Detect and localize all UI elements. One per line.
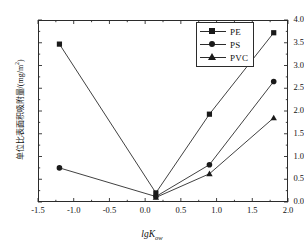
data-point-ps — [57, 165, 63, 171]
y-axis-title-tail: ) — [16, 59, 25, 62]
y-tick-label: 2.5 — [272, 83, 304, 92]
y-axis-title-main: 单位比表面积吸附量/(mg/m — [16, 65, 25, 161]
x-tick-label: -0.5 — [89, 206, 129, 215]
x-tick-label: 1.0 — [197, 206, 237, 215]
x-axis-title: lgKow — [0, 229, 304, 241]
y-tick-label: 4.0 — [272, 15, 304, 24]
x-tick-label: 0.0 — [125, 206, 165, 215]
x-tick-label: -1.5 — [18, 206, 58, 215]
x-tick-label: 2.0 — [268, 206, 304, 215]
y-axis-title: 单位比表面积吸附量/(mg/m2) — [13, 35, 25, 185]
data-point-ps — [207, 162, 213, 168]
y-tick-label: 2.0 — [272, 106, 304, 115]
legend-label: PS — [226, 40, 240, 50]
legend-label: PVC — [226, 53, 248, 63]
data-point-pe — [57, 42, 62, 47]
legend-item-pe[interactable]: PE — [200, 25, 248, 38]
data-point-pvc — [271, 115, 277, 121]
chart-container: 0.00.51.01.52.02.53.03.54.0 -1.5-1.0-0.5… — [0, 0, 304, 252]
y-tick-label: 1.0 — [272, 152, 304, 161]
x-tick-label: 1.5 — [232, 206, 272, 215]
legend-item-pvc[interactable]: PVC — [200, 51, 248, 64]
chart-legend: PEPSPVC — [196, 22, 254, 67]
data-point-pe — [271, 30, 276, 35]
y-axis-title-superscript: 2 — [14, 62, 20, 65]
legend-marker-circle-icon — [200, 39, 226, 50]
x-axis-title-subscript: ow — [155, 234, 163, 241]
legend-item-ps[interactable]: PS — [200, 38, 248, 51]
x-axis-title-main: lgK — [141, 229, 155, 239]
legend-marker-triangle-icon — [200, 52, 226, 63]
data-point-pe — [207, 112, 212, 117]
y-tick-label: 1.5 — [272, 129, 304, 138]
y-tick-label: 3.5 — [272, 38, 304, 47]
x-tick-label: 0.5 — [161, 206, 201, 215]
x-tick-label: -1.0 — [54, 206, 94, 215]
legend-marker-square-icon — [200, 26, 226, 37]
y-tick-label: 0.5 — [272, 174, 304, 183]
legend-label: PE — [226, 27, 241, 37]
y-tick-label: 3.0 — [272, 61, 304, 70]
